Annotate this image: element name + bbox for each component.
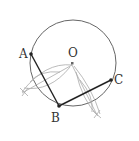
label-b: B: [51, 111, 60, 125]
bisector-line-ab: [22, 65, 72, 93]
construction-arc: [76, 72, 98, 116]
label-a: A: [18, 47, 28, 61]
point-b: [57, 104, 61, 108]
label-c: C: [114, 73, 123, 87]
construction-arcs-ab: [20, 65, 72, 96]
label-o: O: [68, 46, 78, 60]
point-o: [71, 62, 74, 65]
geometry-diagram: A B C O: [0, 0, 139, 141]
segment-ab: [31, 54, 59, 106]
point-c: [109, 78, 113, 82]
bisector-line-bc: [72, 65, 97, 115]
point-a: [29, 52, 33, 56]
